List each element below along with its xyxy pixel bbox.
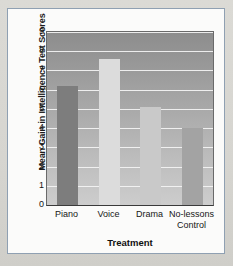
y-tick-label: 4 [30, 123, 44, 132]
bar-chart: Mean Gain in Intelligence Test Scores 01… [8, 9, 226, 255]
y-axis-ticks: 0123456789 [28, 31, 44, 206]
gridline [47, 51, 213, 52]
bar-piano [57, 86, 78, 205]
chart-card: Mean Gain in Intelligence Test Scores 01… [7, 8, 225, 254]
y-tick-label: 5 [30, 104, 44, 113]
bar-voice [99, 59, 120, 205]
y-tick-label: 8 [30, 46, 44, 55]
bar-no-lessons-control [182, 128, 203, 205]
y-tick-label: 2 [30, 162, 44, 171]
y-tick-label: 0 [30, 200, 44, 209]
gridline [47, 70, 213, 71]
y-tick-label: 7 [30, 65, 44, 74]
y-tick-label: 3 [30, 142, 44, 151]
x-tick-label-line: No-lessons [166, 209, 217, 220]
plot-area [46, 31, 214, 206]
bar-drama [140, 107, 161, 205]
y-tick-label: 6 [30, 85, 44, 94]
x-tick-label-line: Control [166, 220, 217, 231]
gridline [47, 32, 213, 33]
y-tick-label: 1 [30, 181, 44, 190]
x-tick-label: No-lessonsControl [166, 209, 217, 231]
y-tick-label: 9 [30, 27, 44, 36]
page-background: Mean Gain in Intelligence Test Scores 01… [0, 0, 233, 266]
x-axis-ticks: PianoVoiceDramaNo-lessonsControl [46, 209, 218, 239]
x-axis-title: Treatment [46, 237, 214, 248]
